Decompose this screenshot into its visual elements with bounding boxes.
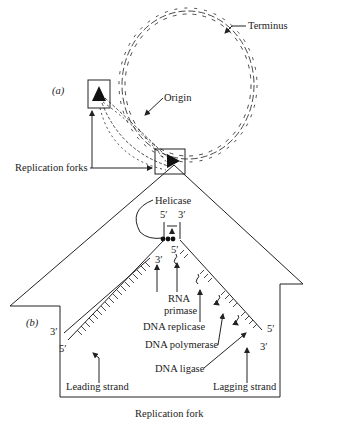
parental-duplex (164, 222, 180, 239)
leading-new-strand (64, 258, 150, 333)
origin-arrow (145, 98, 163, 115)
okazaki-fragments (180, 250, 257, 328)
leading-base-pairs (77, 262, 150, 335)
replication-fork-caption: Replication fork (135, 408, 204, 419)
leading-pointer-head (93, 353, 99, 358)
panel-b-label: (b) (26, 317, 39, 329)
lagging-primer-5prime: 5′ (171, 244, 179, 255)
leading-strand-label: Leading strand (66, 381, 129, 392)
leading-3prime: 3′ (50, 326, 58, 337)
lagging-5prime: 5′ (267, 323, 275, 334)
circular-chromosome (100, 8, 257, 170)
lagging-3prime: 3′ (260, 341, 268, 352)
leading-new-3prime: 3′ (155, 254, 163, 265)
rna-primase-label-2: primase (164, 305, 198, 316)
rna-primase-label-1: RNA (168, 293, 191, 304)
dna-ligase-label: DNA ligase (155, 363, 205, 374)
parental-5prime: 5′ (160, 209, 168, 220)
replication-forks-label: Replication forks (15, 162, 88, 173)
parental-3prime: 3′ (178, 209, 186, 220)
fork-triangle-upper (92, 86, 106, 101)
lagging-strand-label: Lagging strand (213, 381, 277, 392)
leading-5prime: 5′ (59, 343, 67, 354)
dna-polymerase-pointer (218, 314, 223, 345)
fork-pointer-upper (90, 111, 92, 168)
terminus-arrow (225, 26, 246, 33)
dna-polymerase-label: DNA polymerase (145, 339, 219, 350)
origin-label: Origin (164, 92, 192, 103)
dna-replicase-label: DNA replicase (143, 321, 205, 332)
terminus-label: Terminus (248, 20, 288, 31)
panel-a-label: (a) (52, 85, 65, 97)
replication-diagram: Terminus Origin (a) Replication forks (b… (0, 0, 339, 435)
lagging-template-strand (180, 240, 262, 330)
helicase-label: Helicase (155, 195, 191, 206)
